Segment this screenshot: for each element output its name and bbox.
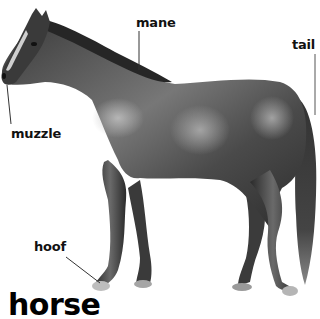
barrel-highlight: [170, 105, 230, 155]
far-fore-hoof: [134, 280, 152, 288]
label-mane: mane: [136, 16, 176, 29]
diagram-title: horse: [8, 290, 100, 319]
near-fore-leg: [94, 160, 126, 286]
shoulder-highlight: [92, 98, 144, 138]
far-hind-hoof: [232, 283, 252, 291]
far-fore-leg: [128, 180, 152, 285]
rump-highlight: [250, 96, 294, 140]
horse-eye: [31, 42, 37, 46]
hoof-leader-line: [66, 257, 100, 283]
nostril: [2, 73, 6, 79]
near-hind-hoof: [282, 286, 298, 296]
label-hoof: hoof: [34, 240, 66, 253]
label-tail: tail: [292, 38, 315, 51]
label-muzzle: muzzle: [11, 127, 61, 140]
muzzle-leader-line: [7, 85, 11, 124]
